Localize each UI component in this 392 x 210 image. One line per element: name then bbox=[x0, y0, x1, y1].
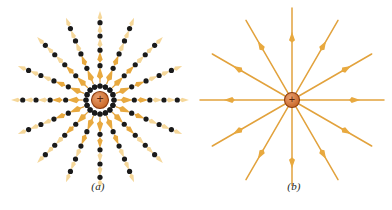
field-vector-ray bbox=[18, 66, 90, 97]
field-line-ray bbox=[212, 104, 286, 147]
field-vector-arrowhead bbox=[124, 161, 129, 170]
field-vector-arrowhead bbox=[24, 98, 33, 103]
field-sample-dot bbox=[78, 143, 83, 148]
field-vector-arrowhead bbox=[67, 97, 79, 103]
field-sample-dot bbox=[26, 68, 31, 73]
field-vector-arrowhead bbox=[81, 135, 87, 145]
field-line-arrowhead bbox=[233, 66, 243, 73]
field-vector-arrowhead bbox=[66, 127, 74, 135]
field-vector-arrowhead bbox=[124, 30, 129, 39]
field-sample-dot bbox=[161, 97, 166, 102]
field-vector-arrowhead bbox=[87, 119, 94, 130]
field-sample-dot bbox=[38, 122, 43, 127]
field-line-arrowhead bbox=[319, 41, 326, 51]
field-vector-arrowhead bbox=[106, 70, 113, 81]
field-vector-arrowhead bbox=[156, 156, 163, 163]
field-sample-dot-inner bbox=[103, 84, 108, 89]
field-sample-dot bbox=[111, 129, 116, 134]
field-vector-arrowhead bbox=[77, 114, 86, 123]
panel-a: + (a) bbox=[0, 0, 196, 210]
field-sample-dot bbox=[147, 97, 152, 102]
field-sample-dot bbox=[157, 122, 162, 127]
field-sample-dot bbox=[122, 73, 127, 78]
field-sample-dot bbox=[127, 26, 132, 31]
field-vector-arrowhead bbox=[76, 149, 81, 158]
field-vector-arrowhead bbox=[149, 76, 158, 81]
field-sample-dot bbox=[157, 73, 162, 78]
field-sample-dot bbox=[97, 48, 102, 53]
field-sample-dot bbox=[97, 63, 102, 68]
field-vector-arrowhead bbox=[98, 37, 103, 47]
field-vector-arrowhead bbox=[56, 56, 63, 63]
field-line bbox=[296, 20, 339, 94]
field-sample-dot bbox=[116, 143, 121, 148]
field-sample-dot bbox=[116, 51, 121, 56]
field-sample-dot-inner bbox=[107, 107, 112, 112]
field-sample-dot bbox=[73, 122, 78, 127]
field-vector-arrowhead bbox=[97, 138, 102, 149]
field-sample-dot bbox=[78, 51, 83, 56]
field-vector-arrowhead bbox=[106, 119, 113, 130]
field-vector-arrowhead bbox=[135, 113, 145, 119]
field-vector-arrowhead bbox=[71, 30, 76, 39]
field-sample-dot-inner bbox=[92, 110, 97, 115]
field-vector-ray bbox=[107, 107, 163, 163]
field-vector-arrowhead bbox=[98, 24, 103, 33]
field-line-arrowhead bbox=[258, 149, 265, 159]
field-vector-ray bbox=[103, 18, 134, 90]
field-line bbox=[246, 106, 289, 180]
field-line-arrowhead bbox=[258, 41, 265, 51]
field-vector-arrowhead bbox=[11, 98, 20, 103]
field-vector-ray bbox=[97, 111, 103, 186]
panel-b-label: (b) bbox=[196, 180, 392, 192]
field-vector-arrowhead bbox=[70, 106, 81, 113]
field-vector-ray bbox=[111, 97, 189, 103]
figure-root: + (a) + (b) bbox=[0, 0, 392, 210]
field-sample-dot-inner bbox=[88, 107, 93, 112]
field-vector-arrowhead bbox=[55, 113, 65, 119]
field-line-ray bbox=[246, 20, 289, 94]
field-sample-dot-inner bbox=[107, 88, 112, 93]
field-sample-dot bbox=[133, 133, 138, 138]
field-sample-dot bbox=[62, 62, 67, 67]
field-line-arrowhead bbox=[349, 97, 360, 103]
field-vector-arrowhead bbox=[46, 46, 53, 53]
field-sample-dot bbox=[20, 97, 25, 102]
field-vector-arrowhead bbox=[119, 149, 124, 158]
field-vector-arrowhead bbox=[42, 76, 51, 81]
field-line-ray bbox=[298, 54, 372, 97]
field-sample-dot bbox=[43, 152, 48, 157]
field-line-ray bbox=[296, 106, 339, 180]
field-line bbox=[298, 104, 372, 147]
field-vector-arrowhead bbox=[149, 119, 158, 124]
field-line-arrowhead bbox=[341, 66, 351, 73]
field-vector-ray bbox=[18, 103, 90, 134]
field-sample-dot bbox=[127, 169, 132, 174]
field-vector-arrowhead bbox=[42, 119, 51, 124]
field-vector-arrowhead bbox=[46, 147, 53, 154]
field-vector-arrowhead bbox=[97, 67, 103, 79]
field-vector-arrowhead bbox=[135, 81, 145, 87]
field-vector-arrowhead bbox=[113, 55, 119, 65]
field-line-arrowhead bbox=[341, 127, 351, 134]
field-sample-dot bbox=[38, 73, 43, 78]
field-line-arrowhead bbox=[289, 32, 295, 43]
field-sample-dot-inner bbox=[97, 83, 102, 88]
field-vector-arrowhead bbox=[30, 71, 39, 76]
field-vector-arrowhead bbox=[180, 98, 189, 103]
field-sample-dot bbox=[129, 84, 134, 89]
field-sample-dot-inner bbox=[88, 88, 93, 93]
field-sample-dot bbox=[33, 97, 38, 102]
field-vector-arrowhead bbox=[97, 121, 103, 133]
panel-a-label: (a) bbox=[0, 180, 196, 192]
field-vector-arrowhead bbox=[156, 37, 163, 44]
field-sample-dot bbox=[97, 33, 102, 38]
field-vector-arrowhead bbox=[66, 66, 74, 74]
field-sample-dot bbox=[73, 38, 78, 43]
field-vector-arrowhead bbox=[37, 98, 47, 103]
field-sample-dot bbox=[73, 73, 78, 78]
field-vector-arrowhead bbox=[81, 55, 87, 65]
field-sample-dot bbox=[26, 127, 31, 132]
field-line-ray bbox=[298, 104, 372, 147]
field-vector-ray bbox=[110, 103, 182, 134]
